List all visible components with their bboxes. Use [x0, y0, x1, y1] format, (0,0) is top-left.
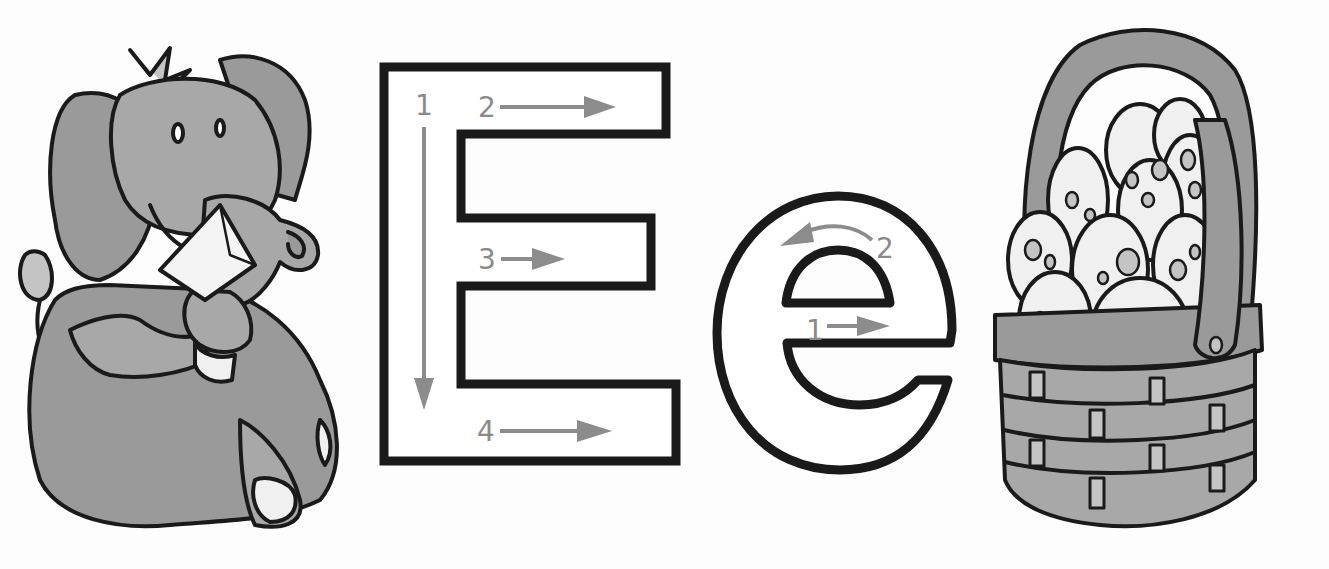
stroke-1-number: 1: [806, 314, 824, 347]
egg-basket-illustration: [995, 30, 1262, 526]
worksheet-canvas: 1 2 3 4: [0, 0, 1329, 569]
uppercase-e-outline: [384, 67, 676, 461]
stroke-2-number: 2: [478, 91, 496, 124]
letter-e-tracing-worksheet: 1 2 3 4: [0, 0, 1329, 569]
elephant-illustration: [20, 48, 337, 527]
lowercase-e-outline: [717, 196, 952, 470]
stroke-1-number: 1: [415, 89, 433, 122]
stroke-2-number: 2: [876, 232, 894, 265]
stroke-3-number: 3: [478, 243, 496, 276]
stroke-4-number: 4: [477, 415, 495, 448]
